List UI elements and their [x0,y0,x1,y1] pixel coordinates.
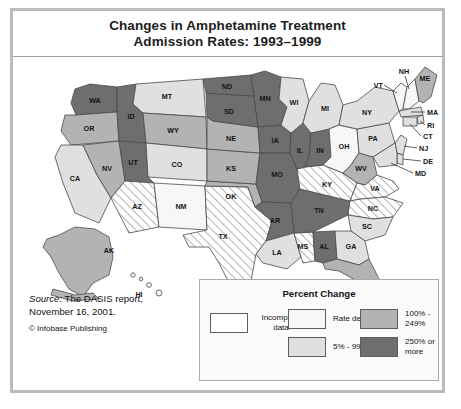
label-wa: WA [89,96,101,105]
label-al: AL [319,242,329,251]
page-title: Changes in Amphetamine Treatment Admissi… [109,18,346,50]
title-line-2: Admission Rates: 1993–1999 [109,34,346,50]
label-co: CO [172,160,183,169]
label-mt: MT [162,92,173,101]
label-ms: MS [298,242,309,251]
label-wy: WY [167,126,179,135]
label-ga: GA [346,242,357,251]
label-md: MD [415,169,426,178]
label-ne: NE [226,134,236,143]
source-line-1: Source: The DASIS report, [29,293,204,306]
legend-swatch-decline-icon [288,309,326,329]
label-ut: UT [128,158,138,167]
label-mo: MO [271,170,283,179]
legend-label-twofifty-plus: 250% or more [405,337,438,357]
source-citation: Source: The DASIS report, November 16, 2… [29,293,204,333]
label-il: IL [297,146,304,155]
label-la: LA [272,248,282,257]
label-or: OR [84,124,96,133]
label-in: IN [316,146,323,155]
label-pa: PA [368,134,377,143]
label-nm: NM [175,202,186,211]
label-nv: NV [102,164,112,173]
label-ct: CT [423,132,433,141]
label-ky: KY [322,180,332,189]
label-mi: MI [321,104,329,113]
legend-swatch-hundred-249-icon [360,309,398,329]
legend-item-five-ninetynine[interactable]: 5% - 99% [288,337,368,357]
state-de [397,153,403,165]
label-va: VA [370,184,379,193]
legend-item-hundred-249[interactable]: 100% - 249% [360,309,438,329]
legend-label-incomplete-line2: data [273,323,289,332]
figure-title-band: Changes in Amphetamine Treatment Admissi… [13,11,442,57]
label-tn: TN [314,206,324,215]
legend-label-hundred-249: 100% - 249% [405,309,438,329]
label-ok: OK [226,192,238,201]
source-label: Source: [29,293,62,304]
legend-item-twofifty-plus[interactable]: 250% or more [360,337,438,357]
label-vt: VT [374,81,384,90]
label-ks: KS [226,164,236,173]
source-text: The DASIS report, [62,293,143,304]
label-me: ME [420,74,431,83]
label-ar: AR [270,216,281,225]
label-ia: IA [271,136,278,145]
label-nd: ND [222,82,232,91]
label-tx: TX [218,232,227,241]
legend-swatch-twofifty-plus-icon [360,337,398,357]
label-ca: CA [70,174,80,183]
figure-container: Changes in Amphetamine Treatment Admissi… [10,8,445,393]
legend-title: Percent Change [200,288,438,299]
label-mn: MN [259,94,270,103]
label-nj: NJ [419,144,428,153]
label-nh: NH [399,67,409,76]
label-az: AZ [132,202,142,211]
label-nc: NC [368,204,378,213]
label-ny: NY [362,108,372,117]
label-wv: WV [355,164,367,173]
state-ct [403,117,417,126]
label-oh: OH [339,142,350,151]
label-ak: AK [104,246,115,255]
state-ak [43,227,113,297]
label-sc: SC [362,222,372,231]
label-ma: MA [427,108,438,117]
copyright-line: © Infobase Publishing [29,324,204,333]
map-legend: Percent Change Incomplete data Rate decl… [199,279,439,381]
label-sd: SD [224,107,234,116]
label-de: DE [423,157,433,166]
map-canvas: WA OR CA NV ID UT MT WY CO AZ NM TX OK K… [13,57,442,389]
legend-swatch-five-ninetynine-icon [288,337,326,357]
state-me [415,67,437,103]
label-ri: RI [427,121,434,130]
label-wi: WI [290,98,299,107]
source-line-2: November 16, 2001. [29,306,204,319]
state-ri [417,115,424,124]
legend-swatch-incomplete-icon [210,313,248,333]
title-line-1: Changes in Amphetamine Treatment [109,18,346,34]
label-id: ID [127,112,134,121]
